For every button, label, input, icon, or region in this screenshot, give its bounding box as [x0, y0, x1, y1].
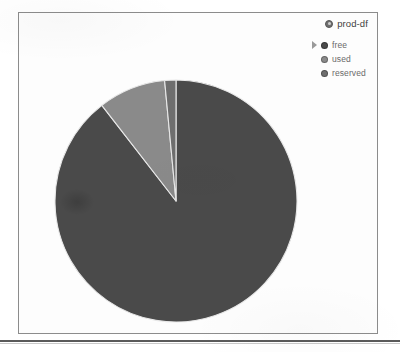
legend-item-reserved[interactable]: reserved	[321, 67, 366, 79]
legend-bullet-icon	[321, 56, 328, 63]
legend-label-free: free	[332, 40, 347, 50]
panel-title-label: prod-df	[337, 18, 368, 29]
pie-chart[interactable]	[54, 79, 298, 323]
panel-title: prod-df	[322, 17, 371, 30]
legend-item-used[interactable]: used	[321, 53, 366, 65]
footer-divider	[0, 340, 400, 342]
caret-right-icon	[312, 41, 317, 49]
legend-item-free[interactable]: free	[321, 39, 366, 51]
legend-bullet-icon	[321, 42, 328, 49]
footer-divider-shadow	[0, 343, 400, 344]
legend-bullet-icon	[321, 70, 328, 77]
pie-chart-svg	[54, 79, 298, 323]
disk-dot-icon	[325, 20, 333, 28]
legend-label-reserved: reserved	[332, 68, 366, 78]
chart-panel: prod-df free used reserved	[18, 12, 378, 334]
chart-legend: free used reserved	[321, 39, 366, 81]
legend-label-used: used	[332, 54, 351, 64]
